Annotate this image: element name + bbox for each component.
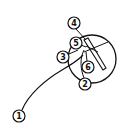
callout-label: 6 xyxy=(85,63,91,72)
callout-2: 2 xyxy=(79,78,91,90)
callout-5: 5 xyxy=(70,37,82,49)
leader-line-3 xyxy=(69,50,78,54)
callout-label: 3 xyxy=(60,53,66,62)
callout-4: 4 xyxy=(68,17,80,29)
callout-6: 6 xyxy=(82,61,94,73)
leader-line-1 xyxy=(22,55,83,110)
diagram-canvas: 1 2 3 4 5 6 xyxy=(0,0,126,138)
callout-label: 2 xyxy=(82,80,88,89)
callout-3: 3 xyxy=(57,51,69,63)
callout-1: 1 xyxy=(13,110,25,122)
callout-label: 5 xyxy=(73,39,79,48)
callout-label: 1 xyxy=(16,112,22,121)
callout-label: 4 xyxy=(71,19,77,28)
leader-line-6 xyxy=(86,52,87,61)
